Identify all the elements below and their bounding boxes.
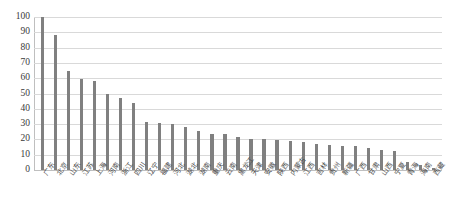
bar-slot	[323, 17, 336, 170]
bar-slot	[336, 17, 349, 170]
bar	[41, 17, 44, 170]
y-tick-label: 0	[25, 165, 30, 175]
x-label-slot: 四川	[127, 172, 140, 222]
bar-slot	[192, 17, 205, 170]
x-label-slot: 上海	[88, 172, 101, 222]
bar-slot	[427, 17, 440, 170]
bar-slot	[218, 17, 231, 170]
bar	[132, 103, 135, 170]
x-label-slot: 新疆	[336, 172, 349, 222]
bar-slot	[205, 17, 218, 170]
y-tick-label: 10	[21, 150, 31, 160]
x-label-slot: 河北	[166, 172, 179, 222]
bar-slot	[166, 17, 179, 170]
x-label-slot: 云南	[218, 172, 231, 222]
bar	[80, 79, 83, 170]
x-label-slot: 吉林	[310, 172, 323, 222]
bar-slot	[310, 17, 323, 170]
bar-slot	[114, 17, 127, 170]
bar-slot	[271, 17, 284, 170]
x-label-slot: 福建	[153, 172, 166, 222]
x-label-slot: 山东	[62, 172, 75, 222]
y-tick-label: 90	[21, 28, 31, 38]
x-label-slot: 山西	[375, 172, 388, 222]
x-label-slot: 湖南	[192, 172, 205, 222]
y-tick-label: 40	[21, 104, 31, 114]
x-label-slot: 安徽	[258, 172, 271, 222]
x-label-slot: 甘肃	[362, 172, 375, 222]
x-label-slot: 西藏	[427, 172, 440, 222]
x-label-slot: 天津	[245, 172, 258, 222]
bar-series	[34, 17, 442, 170]
x-label-slot: 北京	[49, 172, 62, 222]
bar-slot	[297, 17, 310, 170]
bar-chart: 0102030405060708090100 广东北京山东江苏上海河南浙江四川辽…	[0, 0, 450, 224]
y-tick-label: 80	[21, 43, 31, 53]
bar-slot	[414, 17, 427, 170]
bar-slot	[349, 17, 362, 170]
x-label-slot: 辽宁	[140, 172, 153, 222]
x-label-slot: 江西	[297, 172, 310, 222]
y-tick-label: 100	[16, 12, 30, 22]
bar-slot	[258, 17, 271, 170]
y-tick-label: 30	[21, 119, 31, 129]
y-tick-label: 50	[21, 89, 31, 99]
y-tick-label: 60	[21, 73, 31, 83]
bar	[158, 123, 161, 170]
bar	[67, 71, 70, 170]
bar-slot	[36, 17, 49, 170]
x-label-slot: 贵州	[323, 172, 336, 222]
x-label-slot: 浙江	[114, 172, 127, 222]
plot-area	[34, 17, 442, 170]
bar-slot	[140, 17, 153, 170]
bar-slot	[88, 17, 101, 170]
bar-slot	[388, 17, 401, 170]
bar	[106, 94, 109, 170]
bar	[93, 81, 96, 170]
y-axis-labels: 0102030405060708090100	[0, 17, 30, 170]
bar-slot	[127, 17, 140, 170]
x-label-slot: 黑龙江	[231, 172, 244, 222]
x-label-slot: 海南	[414, 172, 427, 222]
x-label-slot: 江苏	[75, 172, 88, 222]
bar-slot	[153, 17, 166, 170]
bar-slot	[362, 17, 375, 170]
x-label-slot: 河南	[101, 172, 114, 222]
x-label-slot: 青海	[401, 172, 414, 222]
bar-slot	[101, 17, 114, 170]
bar-slot	[75, 17, 88, 170]
x-label-slot: 重庆	[205, 172, 218, 222]
bar-slot	[179, 17, 192, 170]
x-axis-labels: 广东北京山东江苏上海河南浙江四川辽宁福建河北湖北湖南重庆云南黑龙江天津安徽陕西内…	[34, 172, 442, 222]
x-label-slot: 陕西	[271, 172, 284, 222]
bar-slot	[49, 17, 62, 170]
bar	[145, 122, 148, 170]
bar-slot	[231, 17, 244, 170]
bar	[119, 98, 122, 170]
bar-slot	[284, 17, 297, 170]
x-label-slot: 内蒙古	[284, 172, 297, 222]
x-label-slot: 宁夏	[388, 172, 401, 222]
x-label-slot: 广西	[349, 172, 362, 222]
bar-slot	[375, 17, 388, 170]
bar	[54, 35, 57, 170]
bar-slot	[62, 17, 75, 170]
x-label-slot: 广东	[36, 172, 49, 222]
y-tick-label: 20	[21, 135, 31, 145]
x-label-slot: 湖北	[179, 172, 192, 222]
bar-slot	[245, 17, 258, 170]
y-tick-label: 70	[21, 58, 31, 68]
bar-slot	[401, 17, 414, 170]
